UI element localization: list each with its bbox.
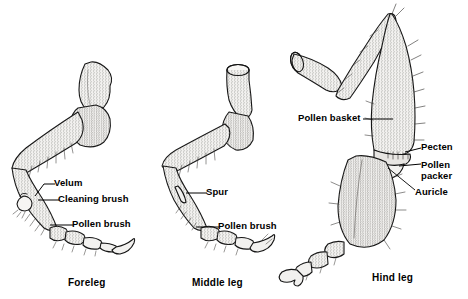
leader-pollen-brush-foreleg [48,221,74,231]
label-pollen-basket: Pollen basket [298,113,361,124]
label-pollen-brush-middle: Pollen brush [218,221,277,232]
label-velum: Velum [54,178,83,189]
leader-pollen-brush-middle [194,223,220,233]
label-auricle: Auricle [415,187,448,198]
leader-spur [184,189,208,199]
label-pollen-packer: Pollen packer [421,160,467,181]
leader-auricle [384,166,416,192]
hind-leg-drawing [279,4,425,286]
leader-pollen-basket [362,115,394,125]
label-pollen-brush-foreleg: Pollen brush [72,219,131,230]
label-cleaning-brush: Cleaning brush [58,194,129,205]
caption-hind-leg: Hind leg [372,272,413,283]
label-spur: Spur [206,187,228,198]
label-pecten: Pecten [421,142,453,153]
leader-cleaning-brush [36,196,60,206]
leader-pecten [404,146,422,156]
caption-foreleg: Foreleg [68,277,106,288]
caption-middle-leg: Middle leg [192,277,243,288]
bee-leg-illustration [0,0,468,299]
bee-leg-figure: Velum Cleaning brush Pollen brush Spur P… [0,0,468,299]
